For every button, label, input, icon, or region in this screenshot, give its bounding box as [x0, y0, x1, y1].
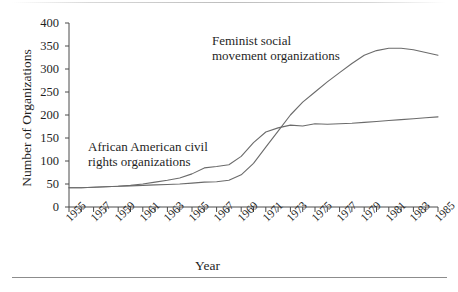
annotation-feminist-series: Feminist social movement organizations: [212, 33, 340, 63]
annotation-civil-rights-series: African American civil rights organizati…: [88, 139, 208, 169]
figure-container: 050100150200250300350400 195519571959196…: [0, 0, 458, 292]
x-axis-title: Year: [195, 258, 220, 274]
y-tick-marks: [65, 23, 69, 207]
y-axis-title: Number of Organizations: [19, 33, 35, 203]
y-tick-label: 400: [25, 17, 59, 30]
